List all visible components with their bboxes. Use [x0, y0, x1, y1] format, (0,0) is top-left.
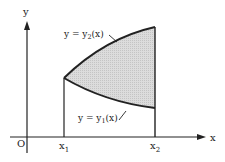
lower-curve-label: y = y1(x) [77, 113, 118, 125]
shaded-region [64, 27, 155, 108]
x1-tick-label: x1 [59, 140, 69, 154]
origin-label: O [17, 138, 25, 149]
x-axis-label: x [210, 132, 216, 143]
x2-tick-label: x2 [150, 140, 160, 154]
x-axis-arrow-icon [197, 134, 206, 140]
upper-curve-label: y = y2(x) [63, 29, 104, 41]
upper-curve-leader [109, 35, 117, 42]
y-axis-label: y [22, 6, 29, 17]
area-between-curves-diagram: y x O x1 x2 y = y2(x) y = y1(x) [0, 0, 225, 162]
lower-curve-leader [119, 111, 126, 120]
y-axis-arrow-icon [24, 21, 30, 30]
